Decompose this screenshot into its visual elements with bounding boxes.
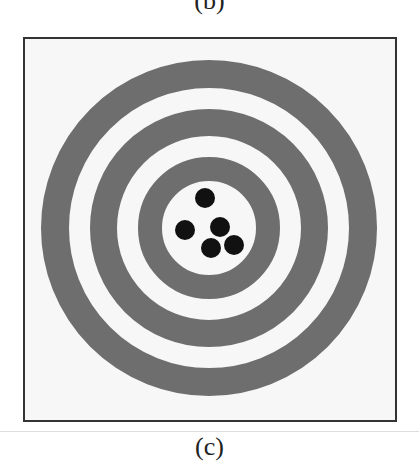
figure-label-b: (b): [0, 0, 419, 16]
figure-label-c: (c): [0, 432, 419, 461]
shot-hole: [201, 238, 221, 258]
shot-hole: [175, 220, 195, 240]
target-diagram: [25, 39, 395, 420]
ring-inner: [150, 169, 268, 287]
shot-hole: [210, 217, 230, 237]
shot-hole: [224, 235, 244, 255]
shot-hole: [195, 188, 215, 208]
ring-middle: [104, 123, 315, 334]
target-figure: [23, 37, 397, 422]
shot-group: [175, 188, 244, 258]
